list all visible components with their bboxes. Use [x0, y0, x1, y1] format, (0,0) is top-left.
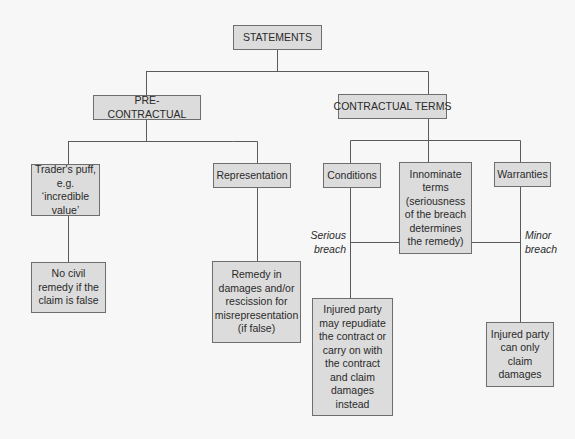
node-contractual-terms: CONTRACTUAL TERMS [338, 94, 447, 119]
innominate-line-3: (seriousness [406, 195, 466, 209]
node-representation-label: Representation [216, 169, 287, 183]
damages-only-line-1: Injured party [491, 328, 549, 342]
remedy-line-3: rescission for [226, 295, 288, 309]
node-pre-contractual-label: PRE-CONTRACTUAL [97, 94, 197, 121]
remedy-line-1: Remedy in [231, 268, 281, 282]
no-civil-remedy-line-3: claim is false [38, 294, 98, 308]
node-no-civil-remedy: No civil remedy if the claim is false [31, 262, 106, 313]
node-damages-only-outcome: Injured party can only claim damages [486, 322, 554, 387]
node-statements: STATEMENTS [233, 25, 322, 50]
edge-label-serious-breach: Serious breach [310, 229, 346, 256]
node-representation: Representation [213, 163, 291, 188]
innominate-line-1: Innominate [410, 168, 462, 182]
repudiate-line-4: carry on with [323, 344, 383, 358]
traders-puff-line-3: value’ [52, 204, 79, 218]
repudiate-line-8: instead [336, 398, 370, 412]
traders-puff-line-1: Trader's puff, [35, 163, 96, 177]
node-warranties-label: Warranties [497, 168, 547, 182]
node-traders-puff: Trader's puff, e.g. ‘incredible value’ [31, 164, 100, 216]
no-civil-remedy-line-2: remedy if the [38, 281, 99, 295]
node-conditions-label: Conditions [327, 169, 377, 183]
node-remedy-in-damages: Remedy in damages and/or rescission for … [212, 261, 301, 343]
node-pre-contractual: PRE-CONTRACTUAL [93, 95, 201, 120]
node-warranties: Warranties [494, 162, 551, 187]
traders-puff-line-2: e.g. ‘incredible [35, 177, 96, 204]
no-civil-remedy-line-1: No civil [52, 267, 86, 281]
minor-breach-line-2: breach [525, 243, 557, 257]
damages-only-line-2: can only [500, 341, 539, 355]
repudiate-line-3: the contract or [319, 330, 386, 344]
minor-breach-line-1: Minor [525, 229, 557, 243]
serious-breach-line-1: Serious [310, 229, 346, 243]
diagram-canvas: STATEMENTS PRE-CONTRACTUAL CONTRACTUAL T… [0, 0, 575, 439]
node-conditions: Conditions [323, 163, 381, 188]
repudiate-line-6: and claim [330, 371, 375, 385]
remedy-line-2: damages and/or [219, 282, 295, 296]
remedy-line-4: misrepresentation [215, 309, 298, 323]
innominate-line-4: of the breach [405, 208, 466, 222]
damages-only-line-3: claim [508, 355, 533, 369]
serious-breach-line-2: breach [310, 243, 346, 257]
remedy-line-5: (if false) [238, 322, 275, 336]
node-statements-label: STATEMENTS [243, 31, 312, 45]
repudiate-line-7: damages [331, 384, 374, 398]
node-repudiate-outcome: Injured party may repudiate the contract… [312, 298, 393, 416]
repudiate-line-5: the contract [325, 357, 380, 371]
innominate-line-5: determines [410, 222, 462, 236]
damages-only-line-4: damages [498, 368, 541, 382]
repudiate-line-1: Injured party [323, 303, 381, 317]
node-innominate-terms: Innominate terms (seriousness of the bre… [399, 162, 472, 254]
repudiate-line-2: may repudiate [319, 317, 386, 331]
innominate-line-2: terms [422, 181, 448, 195]
node-contractual-terms-label: CONTRACTUAL TERMS [334, 100, 452, 114]
innominate-line-6: the remedy) [407, 235, 463, 249]
edge-label-minor-breach: Minor breach [525, 229, 557, 256]
